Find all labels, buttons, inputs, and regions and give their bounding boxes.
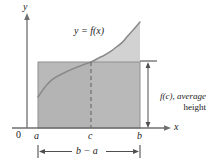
tick-label-a: a	[34, 130, 39, 141]
average-height-label-line1: f(c), average	[150, 91, 206, 102]
x-axis-arrowhead	[164, 125, 171, 131]
origin-label: 0	[16, 129, 21, 140]
mean-value-theorem-figure: y x 0 a c b y = f(x) b − a f(c), average…	[0, 0, 208, 167]
width-dimension-arrowhead-left	[39, 149, 45, 154]
average-height-arrowhead-up	[146, 62, 151, 68]
x-axis-label: x	[174, 121, 178, 132]
average-height-arrowhead-down	[146, 122, 151, 128]
width-dimension-arrowhead-right	[133, 149, 139, 154]
function-label: y = f(x)	[74, 25, 104, 36]
width-label: b − a	[76, 145, 98, 156]
average-height-label-line2: height	[150, 102, 206, 113]
y-axis-arrowhead	[24, 13, 30, 20]
y-axis-label: y	[23, 1, 27, 12]
tick-label-b: b	[137, 130, 142, 141]
tick-label-c: c	[88, 130, 92, 141]
